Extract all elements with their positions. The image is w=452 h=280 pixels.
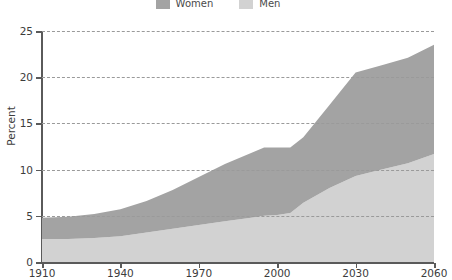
gridline-y-15 [42, 123, 434, 124]
x-tick-label-2060: 2060 [404, 268, 452, 279]
y-tick-label-5: 5 [0, 211, 33, 221]
x-tick-label-1910: 1910 [12, 268, 72, 279]
y-tick-label-20: 20 [0, 72, 33, 82]
x-tick-label-1940: 1940 [90, 268, 150, 279]
y-tick-label-10: 10 [0, 165, 33, 175]
plot-area [42, 31, 434, 262]
x-tick-label-1970: 1970 [169, 268, 229, 279]
area-series-group [42, 31, 434, 262]
y-tick-label-0: 0 [0, 257, 33, 267]
x-tick-label-2000: 2000 [247, 268, 307, 279]
gridline-y-25 [42, 31, 434, 32]
gridline-y-20 [42, 77, 434, 78]
legend-label-men: Men [259, 0, 280, 9]
x-axis-line [41, 262, 434, 264]
chart-legend: Women Men [0, 0, 436, 12]
legend-swatch-men [239, 0, 253, 9]
y-tick-label-25: 25 [0, 26, 33, 36]
legend-entry-men[interactable]: Men [239, 0, 280, 9]
y-tick-label-15: 15 [0, 118, 33, 128]
x-tick-label-2030: 2030 [326, 268, 386, 279]
legend-swatch-women [156, 0, 170, 9]
legend-entry-women[interactable]: Women [156, 0, 214, 9]
legend-label-women: Women [176, 0, 214, 9]
gridline-y-10 [42, 170, 434, 171]
gridline-y-5 [42, 216, 434, 217]
